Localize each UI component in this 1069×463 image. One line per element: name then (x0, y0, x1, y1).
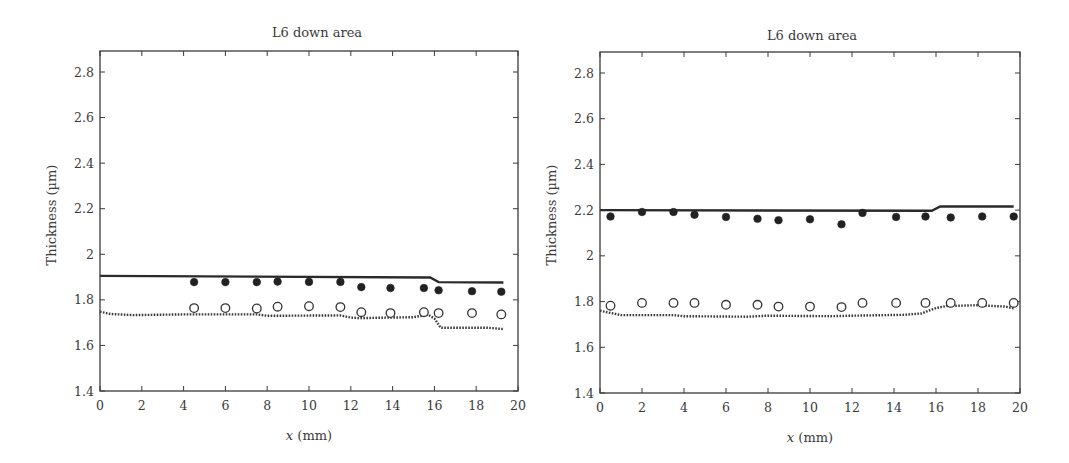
open-circle-marker (221, 304, 230, 313)
x-tick-label: 6 (722, 400, 730, 415)
filled-circle-marker (754, 215, 762, 223)
x-tick-label: 12 (844, 400, 860, 415)
open-circle-marker (1009, 299, 1018, 308)
axis-ticks: 024681012141618201.41.61.822.22.42.62.8 (574, 52, 1028, 415)
open-circle-marker (753, 301, 762, 310)
x-axis-label: x (mm) (787, 430, 833, 445)
x-axis-label-unit: (mm) (293, 428, 332, 443)
solid-line-series (100, 276, 503, 283)
open-circle-marker (497, 310, 506, 319)
y-axis-label: Thickness (µm) (44, 165, 59, 266)
open-circle-marker (690, 299, 699, 308)
open-circle-marker (252, 304, 261, 313)
filled-circle-marker (859, 209, 867, 217)
y-tick-label: 1.4 (74, 384, 94, 399)
filled-circle-marker (420, 284, 428, 292)
y-tick-label: 2.2 (74, 201, 94, 216)
data-series (600, 207, 1018, 317)
open-circle-marker (921, 299, 930, 308)
filled-circle-marker (947, 214, 955, 222)
filled-circle-marker (670, 208, 678, 216)
filled-circle-marker (892, 213, 900, 221)
x-tick-label: 8 (263, 398, 271, 413)
x-tick-label: 14 (886, 400, 902, 415)
filled-circle-marker (190, 278, 198, 286)
open-circle-marker (468, 309, 477, 318)
y-tick-label: 2.4 (574, 157, 594, 172)
x-tick-label: 4 (680, 400, 688, 415)
x-axis-label-unit: (mm) (794, 430, 833, 445)
y-tick-label: 2.4 (74, 156, 94, 171)
chart-title: L6 down area (767, 28, 857, 43)
open-circle-marker (273, 302, 282, 311)
axis-ticks: 024681012141618201.41.61.822.22.42.62.8 (74, 51, 526, 413)
y-tick-label: 2 (586, 248, 594, 263)
x-tick-label: 8 (764, 400, 772, 415)
filled-circle-marker (498, 288, 506, 296)
open-circle-marker (669, 299, 678, 308)
y-tick-label: 1.8 (74, 292, 94, 307)
x-tick-label: 16 (928, 400, 944, 415)
y-tick-label: 1.6 (74, 338, 94, 353)
open-circle-marker (420, 308, 429, 317)
x-tick-label: 2 (638, 400, 646, 415)
open-circle-marker (190, 304, 199, 313)
filled-circle-marker (638, 208, 646, 216)
x-tick-label: 2 (138, 398, 146, 413)
x-tick-label: 10 (802, 400, 818, 415)
solid-line-series (600, 207, 1014, 211)
filled-circle-marker (775, 216, 783, 224)
open-circle-marker (305, 302, 314, 311)
open-circle-marker (336, 303, 345, 312)
y-tick-label: 2.6 (574, 111, 594, 126)
chart-panel-left: L6 down area Thickness (µm) x (mm) 02468… (44, 25, 526, 443)
y-tick-label: 2.2 (574, 203, 594, 218)
open-circle-marker (638, 299, 647, 308)
open-circle-marker (434, 309, 443, 318)
filled-circle-marker (358, 283, 366, 291)
x-tick-label: 18 (468, 398, 484, 413)
y-tick-label: 2.8 (74, 65, 94, 80)
chart-panel-right: L6 down area Thickness (µm) x (mm) 02468… (544, 28, 1028, 445)
filled-circle-marker (222, 278, 230, 286)
open-circle-marker (978, 299, 987, 308)
filled-circle-marker (922, 213, 930, 221)
y-axis-label: Thickness (µm) (544, 165, 559, 266)
filled-circle-marker (468, 287, 476, 295)
open-circle-marker (722, 301, 731, 310)
open-circle-marker (946, 299, 955, 308)
open-circle-marker (774, 302, 783, 311)
y-tick-label: 2.8 (574, 66, 594, 81)
y-tick-label: 1.6 (574, 340, 594, 355)
filled-circle-marker (806, 216, 814, 224)
x-tick-label: 6 (221, 398, 229, 413)
filled-circle-marker (722, 213, 730, 221)
filled-circle-marker (838, 221, 846, 229)
x-tick-label: 0 (96, 398, 104, 413)
x-tick-label: 0 (596, 400, 604, 415)
filled-circle-marker (305, 278, 313, 286)
open-circle-marker (606, 301, 615, 310)
filled-circle-marker (435, 287, 443, 295)
open-circle-marker (386, 309, 395, 318)
x-axis-label: x (mm) (286, 428, 332, 443)
chart-canvas: L6 down area Thickness (µm) x (mm) 02468… (0, 0, 1069, 463)
y-tick-label: 2 (86, 247, 94, 262)
filled-circle-marker (607, 213, 615, 221)
filled-circle-marker (978, 213, 986, 221)
filled-circle-marker (1010, 213, 1018, 221)
open-circle-marker (806, 302, 815, 311)
x-tick-label: 10 (301, 398, 317, 413)
filled-circle-marker (337, 278, 345, 286)
x-tick-label: 18 (970, 400, 986, 415)
x-tick-label: 20 (510, 398, 526, 413)
filled-circle-marker (274, 278, 282, 286)
x-tick-label: 16 (426, 398, 442, 413)
open-circle-marker (858, 299, 867, 308)
y-tick-label: 1.8 (574, 294, 594, 309)
x-tick-label: 4 (180, 398, 188, 413)
filled-circle-marker (253, 278, 261, 286)
open-circle-marker (837, 303, 846, 312)
filled-circle-marker (387, 284, 395, 292)
figure: L6 down area Thickness (µm) x (mm) 02468… (0, 0, 1069, 463)
